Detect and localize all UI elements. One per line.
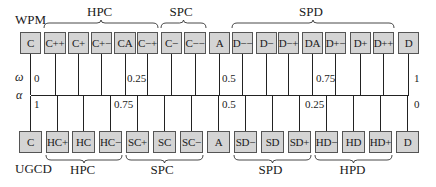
top-connector-line <box>55 54 56 95</box>
top-hue-box: D−− <box>232 32 253 54</box>
axis-divider-line <box>31 95 409 96</box>
bottom-group-label: HPD <box>340 163 366 177</box>
top-group-label: SPD <box>299 5 323 19</box>
bottom-connector-line <box>83 96 84 131</box>
top-hue-box: D++ <box>373 32 394 54</box>
top-hue-box: D+ <box>350 32 371 54</box>
bottom-connector-line <box>218 96 219 131</box>
bottom-hue-box: HC− <box>99 131 122 153</box>
bottom-connector-line <box>57 96 58 131</box>
bottom-hue-box: SD <box>261 131 284 153</box>
bottom-hue-box: SD− <box>234 131 257 153</box>
bottom-connector-line <box>110 96 111 131</box>
bottom-hue-box: SC+ <box>126 131 149 153</box>
top-connector-line <box>408 54 409 95</box>
top-connector-line <box>360 54 361 95</box>
bottom-group-label: SPC <box>151 163 174 177</box>
top-connector-line <box>30 54 31 95</box>
bottom-scheme-label: UGCD <box>15 162 52 176</box>
bottom-hue-box: C <box>19 131 42 153</box>
bottom-connector-line <box>164 96 165 131</box>
bottom-hue-box: SC− <box>180 131 203 153</box>
bottom-hue-box: SD+ <box>288 131 311 153</box>
top-group-brace <box>232 20 394 28</box>
top-connector-line <box>219 54 220 95</box>
bottom-hue-box: A <box>207 131 230 153</box>
color-space-mapping-diagram: WPM UGCD ω α HPCSPCSPD HPCSPCSPDHPD CC++… <box>0 0 436 187</box>
top-hue-box: D <box>398 32 419 54</box>
alpha-tick: 0.75 <box>114 98 133 110</box>
top-hue-box: A <box>209 32 230 54</box>
bottom-connector-line <box>407 96 408 131</box>
bottom-connector-line <box>272 96 273 131</box>
omega-axis-label: ω <box>15 70 23 85</box>
top-hue-box: C+− <box>91 32 112 54</box>
top-hue-box: C−+ <box>137 32 158 54</box>
bottom-group-label: SPD <box>259 163 283 177</box>
bottom-connector-line <box>137 96 138 131</box>
omega-tick: 0.75 <box>316 72 335 84</box>
top-hue-box: D−+ <box>278 32 299 54</box>
top-connector-line <box>312 54 313 95</box>
top-hue-box: C−− <box>184 32 206 54</box>
omega-tick: 0 <box>34 72 40 84</box>
top-group-brace <box>44 20 158 28</box>
top-hue-box: C+ <box>68 32 89 54</box>
bottom-connector-line <box>299 96 300 131</box>
top-hue-box: C++ <box>44 32 66 54</box>
bottom-connector-line <box>326 96 327 131</box>
bottom-hue-box: HC+ <box>46 131 69 153</box>
bottom-group-label: HPC <box>70 163 95 177</box>
top-hue-box: C− <box>161 32 182 54</box>
top-hue-box: C <box>20 32 41 54</box>
top-hue-box: D− <box>256 32 277 54</box>
bottom-connector-line <box>380 96 381 131</box>
bottom-hue-box: SC <box>153 131 176 153</box>
alpha-tick: 0.5 <box>222 98 236 110</box>
top-hue-box: D+− <box>325 32 346 54</box>
top-connector-line <box>266 54 267 95</box>
top-connector-line <box>101 54 102 95</box>
bottom-connector-line <box>30 96 31 131</box>
bottom-connector-line <box>245 96 246 131</box>
alpha-axis-label: α <box>16 88 22 103</box>
omega-tick: 1 <box>414 72 420 84</box>
top-connector-line <box>78 54 79 95</box>
top-connector-line <box>288 54 289 95</box>
top-connector-line <box>147 54 148 95</box>
bottom-hue-box: D <box>396 131 419 153</box>
bottom-connector-line <box>191 96 192 131</box>
top-group-brace <box>161 20 206 28</box>
top-connector-line <box>242 54 243 95</box>
alpha-tick: 1 <box>34 98 40 110</box>
bottom-hue-box: HC <box>72 131 95 153</box>
top-group-label: HPC <box>87 5 112 19</box>
top-connector-line <box>383 54 384 95</box>
top-scheme-label: WPM <box>15 13 46 27</box>
bottom-hue-box: HD <box>342 131 365 153</box>
top-hue-box: DA <box>302 32 323 54</box>
bottom-hue-box: HD+ <box>369 131 392 153</box>
top-connector-line <box>125 54 126 95</box>
top-hue-box: CA <box>114 32 136 54</box>
alpha-tick: 0.25 <box>305 98 324 110</box>
bottom-hue-box: HD− <box>315 131 338 153</box>
omega-tick: 0.25 <box>127 72 146 84</box>
top-group-label: SPC <box>170 5 193 19</box>
omega-tick: 0.5 <box>222 72 236 84</box>
alpha-tick: 0 <box>414 98 420 110</box>
top-connector-line <box>171 54 172 95</box>
top-connector-line <box>195 54 196 95</box>
bottom-connector-line <box>353 96 354 131</box>
